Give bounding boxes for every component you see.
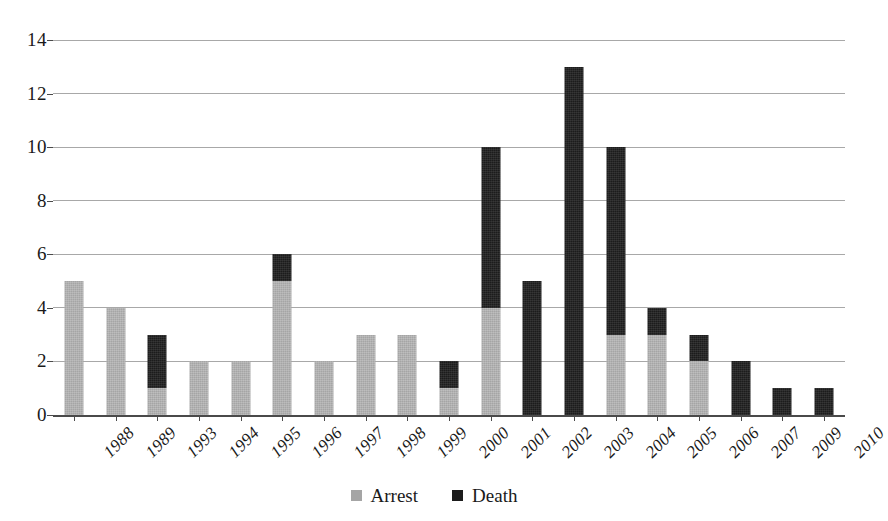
bar-2007[interactable] — [731, 361, 750, 415]
x-tick-label-2009: 2009 — [809, 424, 846, 461]
x-tick-mark-2002 — [532, 416, 533, 421]
bar-2006[interactable] — [690, 335, 709, 415]
bar-slot-2005 — [637, 40, 679, 415]
bar-segment-arrest-1999 — [398, 335, 417, 415]
bar-slot-2010 — [803, 40, 845, 415]
bar-2001[interactable] — [481, 147, 500, 415]
bar-1994[interactable] — [189, 361, 208, 415]
bar-1997[interactable] — [314, 361, 333, 415]
bar-segment-death-2010 — [815, 388, 834, 415]
x-tick-label-1995: 1995 — [267, 424, 304, 461]
bar-1989[interactable] — [106, 308, 125, 415]
x-tick-mark-1997 — [324, 416, 325, 421]
x-tick-mark-2007 — [741, 416, 742, 421]
legend-item-death[interactable]: Death — [452, 486, 517, 505]
bar-segment-arrest-2001 — [481, 308, 500, 415]
x-tick-label-2003: 2003 — [600, 424, 637, 461]
bar-segment-arrest-1998 — [356, 335, 375, 415]
x-tick-label-1994: 1994 — [225, 424, 262, 461]
plot-area — [53, 40, 845, 415]
x-tick-label-1998: 1998 — [392, 424, 429, 461]
bar-segment-death-2006 — [690, 335, 709, 362]
y-tick-label-0: 0 — [5, 405, 47, 424]
bar-slot-1996 — [261, 40, 303, 415]
bar-segment-arrest-1994 — [189, 361, 208, 415]
bar-segment-death-1996 — [273, 254, 292, 281]
bar-2003[interactable] — [565, 67, 584, 415]
bar-segment-arrest-1996 — [273, 281, 292, 415]
x-tick-mark-2004 — [616, 416, 617, 421]
bar-slot-1997 — [303, 40, 345, 415]
bar-1993[interactable] — [148, 335, 167, 415]
bar-2005[interactable] — [648, 308, 667, 415]
bar-slot-1993 — [136, 40, 178, 415]
y-tick-label-12: 12 — [5, 84, 47, 103]
x-tick-mark-2001 — [491, 416, 492, 421]
bar-2004[interactable] — [606, 147, 625, 415]
bar-slot-2009 — [762, 40, 804, 415]
legend-label-arrest: Arrest — [371, 486, 418, 505]
bar-1998[interactable] — [356, 335, 375, 415]
bar-2000[interactable] — [439, 361, 458, 415]
x-tick-label-1999: 1999 — [434, 424, 471, 461]
x-tick-label-1997: 1997 — [350, 424, 387, 461]
bar-segment-arrest-1995 — [231, 361, 250, 415]
x-tick-label-1993: 1993 — [184, 424, 221, 461]
y-tick-label-2: 2 — [5, 351, 47, 370]
x-tick-mark-1994 — [199, 416, 200, 421]
legend-label-death: Death — [472, 486, 517, 505]
bar-slot-2004 — [595, 40, 637, 415]
x-tick-mark-1988 — [74, 416, 75, 421]
x-tick-mark-1998 — [366, 416, 367, 421]
x-tick-label-2004: 2004 — [642, 424, 679, 461]
bar-slot-2007 — [720, 40, 762, 415]
y-tick-label-14: 14 — [5, 30, 47, 49]
x-tick-label-2007: 2007 — [767, 424, 804, 461]
bar-slot-1995 — [220, 40, 262, 415]
x-tick-label-2005: 2005 — [684, 424, 721, 461]
bar-slot-2002 — [512, 40, 554, 415]
bar-segment-arrest-2004 — [606, 335, 625, 415]
bar-slot-1994 — [178, 40, 220, 415]
x-axis: 1988198919931994199519961997199819992000… — [53, 416, 845, 478]
y-tick-label-10: 10 — [5, 137, 47, 156]
bar-segment-death-2000 — [439, 361, 458, 388]
bar-1995[interactable] — [231, 361, 250, 415]
bar-segment-death-2007 — [731, 361, 750, 415]
bar-1996[interactable] — [273, 254, 292, 415]
bar-slot-1999 — [386, 40, 428, 415]
x-tick-mark-2003 — [574, 416, 575, 421]
chart-legend: ArrestDeath — [0, 486, 868, 505]
x-tick-label-2010: 2010 — [850, 424, 887, 461]
bar-2009[interactable] — [773, 388, 792, 415]
bar-segment-death-2001 — [481, 147, 500, 308]
bar-1988[interactable] — [64, 281, 83, 415]
y-tick-label-4: 4 — [5, 298, 47, 317]
death-swatch — [452, 490, 463, 501]
bar-segment-arrest-1989 — [106, 308, 125, 415]
bar-2010[interactable] — [815, 388, 834, 415]
bar-slot-1988 — [53, 40, 95, 415]
bar-slot-1998 — [345, 40, 387, 415]
x-tick-mark-1995 — [241, 416, 242, 421]
x-tick-mark-2010 — [824, 416, 825, 421]
x-tick-label-1996: 1996 — [309, 424, 346, 461]
x-tick-label-2002: 2002 — [559, 424, 596, 461]
bar-segment-arrest-1997 — [314, 361, 333, 415]
bar-segment-arrest-2006 — [690, 361, 709, 415]
bar-segment-death-1993 — [148, 335, 167, 389]
bar-segment-arrest-1988 — [64, 281, 83, 415]
arrest-swatch — [351, 490, 362, 501]
x-tick-mark-1993 — [157, 416, 158, 421]
y-axis: 02468101214 — [0, 40, 47, 415]
bar-1999[interactable] — [398, 335, 417, 415]
bar-slot-2006 — [678, 40, 720, 415]
x-tick-mark-1999 — [407, 416, 408, 421]
bar-2002[interactable] — [523, 281, 542, 415]
legend-item-arrest[interactable]: Arrest — [351, 486, 418, 505]
x-tick-label-2006: 2006 — [725, 424, 762, 461]
bar-slot-2000 — [428, 40, 470, 415]
bar-segment-death-2009 — [773, 388, 792, 415]
bar-segment-death-2004 — [606, 147, 625, 335]
x-tick-mark-2006 — [699, 416, 700, 421]
